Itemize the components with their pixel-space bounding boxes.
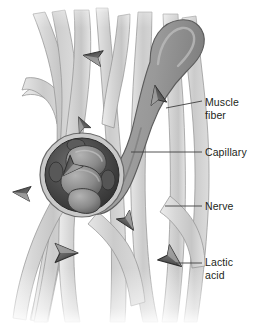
label-lactic-acid: Lactic acid bbox=[205, 256, 233, 281]
nerve-cross-section bbox=[40, 133, 124, 217]
nerve-fascicle bbox=[68, 189, 101, 214]
label-nerve: Nerve bbox=[205, 200, 234, 213]
top-fade bbox=[0, 0, 275, 28]
label-capillary: Capillary bbox=[205, 146, 247, 159]
anatomy-illustration bbox=[0, 0, 275, 326]
anatomy-figure: Muscle fiber Capillary Nerve Lactic acid bbox=[0, 0, 275, 326]
label-muscle-fiber: Muscle fiber bbox=[205, 96, 239, 121]
nerve-satellite-fascicle bbox=[101, 170, 115, 190]
bottom-fade bbox=[0, 268, 275, 326]
